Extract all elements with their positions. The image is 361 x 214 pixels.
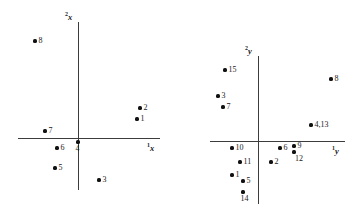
data-point-marker — [238, 160, 241, 163]
vertical-axis-2y — [258, 56, 259, 204]
data-point-label: 1 — [236, 171, 240, 179]
horizontal-axis-1x — [18, 138, 160, 139]
data-point-label: 2 — [144, 104, 148, 112]
axis-label-2x: 2x — [65, 13, 72, 22]
data-point-label: 3 — [222, 92, 226, 100]
data-point-label: 7 — [227, 103, 231, 111]
data-point-marker — [329, 77, 332, 80]
data-point-label: 5 — [59, 164, 63, 172]
data-point-marker — [278, 146, 281, 149]
data-point-label: 4,13 — [315, 121, 329, 129]
data-point-label: 11 — [244, 158, 252, 166]
data-point-label: 1 — [141, 115, 145, 123]
data-point-marker — [241, 179, 244, 182]
data-point-label: 10 — [236, 144, 244, 152]
data-point-marker — [138, 106, 141, 109]
axis-label-2x-text: x — [68, 12, 72, 22]
data-point-marker — [43, 129, 46, 132]
axis-label-1x-text: x — [150, 143, 154, 153]
panel-x-scores: 2x 1x 82176453 — [0, 0, 180, 214]
data-point-marker — [309, 123, 312, 126]
axis-label-1y-text: y — [335, 146, 339, 156]
data-point-label: 15 — [229, 66, 237, 74]
data-point-marker — [216, 94, 219, 97]
axis-label-1x: 1x — [147, 144, 154, 153]
data-point-marker — [221, 105, 224, 108]
axis-label-2y-text: y — [248, 46, 252, 56]
vertical-axis-2x — [78, 22, 79, 190]
horizontal-axis-1y — [210, 141, 345, 142]
data-point-label: 2 — [275, 158, 279, 166]
data-point-label: 3 — [103, 176, 107, 184]
panel-y-scores: 2y 1y 158374,131069121121514 — [180, 0, 361, 214]
data-point-label: 6 — [284, 144, 288, 152]
data-point-marker — [53, 166, 56, 169]
data-point-marker — [55, 146, 58, 149]
data-point-label: 8 — [39, 37, 43, 45]
data-point-label: 4 — [76, 145, 80, 153]
data-point-label: 9 — [298, 142, 302, 150]
data-point-label: 12 — [295, 155, 303, 163]
data-point-label: 8 — [335, 75, 339, 83]
axis-label-1y: 1y — [332, 147, 339, 156]
scatter-plot-figure: 2x 1x 82176453 2y 1y 158374,131069121121… — [0, 0, 361, 214]
data-point-label: 14 — [241, 195, 249, 203]
data-point-marker — [230, 173, 233, 176]
data-point-marker — [33, 39, 36, 42]
data-point-marker — [135, 117, 138, 120]
data-point-marker — [230, 146, 233, 149]
data-point-marker — [292, 144, 295, 147]
data-point-marker — [269, 160, 272, 163]
data-point-marker — [97, 178, 100, 181]
axis-label-2y: 2y — [245, 47, 252, 56]
data-point-label: 6 — [61, 144, 65, 152]
data-point-label: 7 — [49, 127, 53, 135]
data-point-marker — [223, 68, 226, 71]
data-point-label: 5 — [247, 177, 251, 185]
